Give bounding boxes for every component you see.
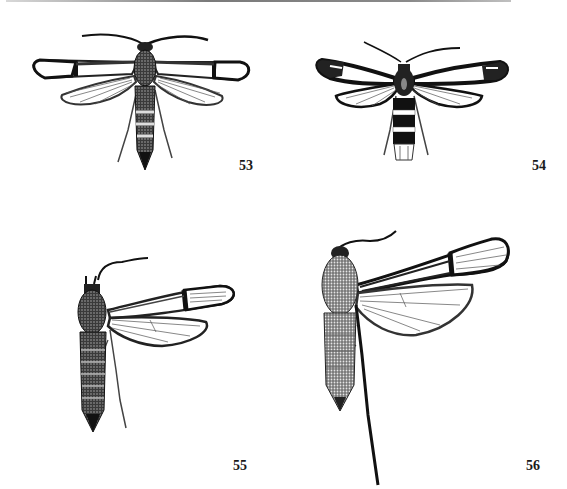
moth-56-illustration: [300, 225, 567, 489]
figure-55: 55: [0, 240, 280, 489]
figure-number-54: 54: [532, 158, 546, 174]
figure-number-53: 53: [239, 158, 253, 174]
moth-55-illustration: [0, 240, 280, 489]
figure-56: 56: [300, 225, 567, 489]
moth-54-illustration: [300, 0, 567, 180]
moth-53-illustration: [0, 0, 280, 180]
figure-54: 54: [300, 0, 567, 180]
figure-number-56: 56: [526, 458, 540, 474]
figure-53: 53: [0, 0, 280, 180]
figure-number-55: 55: [233, 458, 247, 474]
